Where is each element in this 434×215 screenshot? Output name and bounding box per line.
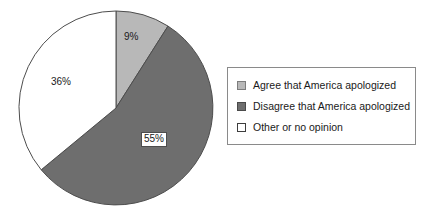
pie-chart-figure: 9% 36% 55% Agree that America apologized… <box>0 0 434 215</box>
legend-item-disagree: Disagree that America apologized <box>237 96 415 117</box>
pie-chart-svg <box>0 0 240 215</box>
legend-swatch-icon-other <box>237 123 246 132</box>
chart-legend: Agree that America apologized Disagree t… <box>227 67 416 145</box>
slice-value-label-other: 36% <box>51 77 71 87</box>
legend-label-other: Other or no opinion <box>253 122 343 133</box>
legend-label-disagree: Disagree that America apologized <box>253 101 410 112</box>
legend-label-agree: Agree that America apologized <box>253 80 396 91</box>
pie-chart: 9% 36% 55% <box>0 0 240 215</box>
legend-swatch-icon-agree <box>237 81 246 90</box>
slice-value-label-disagree: 55% <box>141 132 167 147</box>
legend-swatch-icon-disagree <box>237 102 246 111</box>
slice-value-label-agree: 9% <box>124 32 138 42</box>
legend-item-agree: Agree that America apologized <box>237 75 415 96</box>
legend-item-other: Other or no opinion <box>237 117 415 138</box>
